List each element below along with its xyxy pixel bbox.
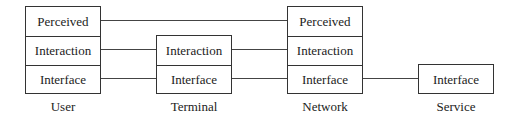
link-terminal-network-interface bbox=[232, 78, 287, 79]
network-label: Network bbox=[287, 99, 363, 115]
terminal-layer-interaction: Interaction bbox=[157, 36, 231, 65]
network-layer-interaction: Interaction bbox=[288, 36, 362, 65]
terminal-layer-interface: Interface bbox=[157, 65, 231, 94]
service-layer-interface: Interface bbox=[419, 65, 493, 94]
terminal-stack: Interaction Interface bbox=[156, 35, 232, 94]
service-label: Service bbox=[418, 99, 494, 115]
service-stack: Interface bbox=[418, 64, 494, 94]
link-network-service-interface bbox=[363, 78, 418, 79]
user-layer-perceived: Perceived bbox=[26, 7, 100, 36]
network-layer-interface: Interface bbox=[288, 65, 362, 94]
link-user-terminal-interface bbox=[101, 78, 156, 79]
user-layer-interface: Interface bbox=[26, 65, 100, 94]
network-layer-perceived: Perceived bbox=[288, 7, 362, 36]
network-stack: Perceived Interaction Interface bbox=[287, 6, 363, 94]
user-layer-interaction: Interaction bbox=[26, 36, 100, 65]
user-stack: Perceived Interaction Interface bbox=[25, 6, 101, 94]
link-terminal-network-interaction bbox=[232, 49, 287, 50]
link-user-terminal-interaction bbox=[101, 49, 156, 50]
user-label: User bbox=[25, 99, 101, 115]
link-user-network-perceived bbox=[101, 20, 287, 21]
terminal-label: Terminal bbox=[156, 99, 232, 115]
